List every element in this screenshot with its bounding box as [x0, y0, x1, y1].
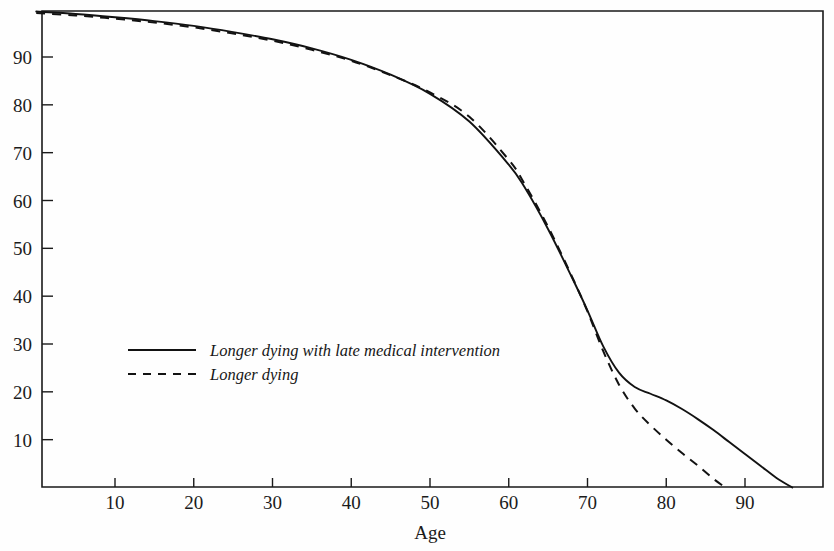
y-tick-label: 90 — [13, 47, 32, 68]
x-axis-title: Age — [414, 522, 446, 543]
x-tick-label: 50 — [421, 492, 440, 513]
x-tick-label: 20 — [184, 492, 203, 513]
chart-page: 102030405060708090 102030405060708090 Lo… — [0, 0, 834, 551]
x-tick-label: 30 — [263, 492, 282, 513]
y-tick-label: 20 — [13, 382, 32, 403]
x-tick-label: 70 — [578, 492, 597, 513]
x-axis-ticks: 102030405060708090 — [106, 478, 755, 513]
y-tick-label: 80 — [13, 95, 32, 116]
y-tick-label: 10 — [13, 430, 32, 451]
y-tick-label: 50 — [13, 238, 32, 259]
series-line-longer-dying-with-late-medical-intervention — [36, 12, 792, 488]
y-tick-label: 40 — [13, 286, 32, 307]
legend-label-0: Longer dying with late medical intervent… — [209, 341, 500, 360]
plot-frame — [42, 11, 823, 487]
x-tick-label: 60 — [499, 492, 518, 513]
legend: Longer dying with late medical intervent… — [128, 341, 500, 384]
x-tick-label: 10 — [106, 492, 125, 513]
survival-curve-chart: 102030405060708090 102030405060708090 Lo… — [0, 0, 834, 551]
x-tick-label: 90 — [736, 492, 755, 513]
y-tick-label: 30 — [13, 334, 32, 355]
legend-label-1: Longer dying — [209, 365, 298, 384]
series-line-longer-dying — [36, 13, 725, 488]
y-axis-ticks: 102030405060708090 — [13, 47, 53, 451]
y-tick-label: 60 — [13, 191, 32, 212]
x-tick-label: 80 — [657, 492, 676, 513]
x-tick-label: 40 — [342, 492, 361, 513]
y-tick-label: 70 — [13, 143, 32, 164]
